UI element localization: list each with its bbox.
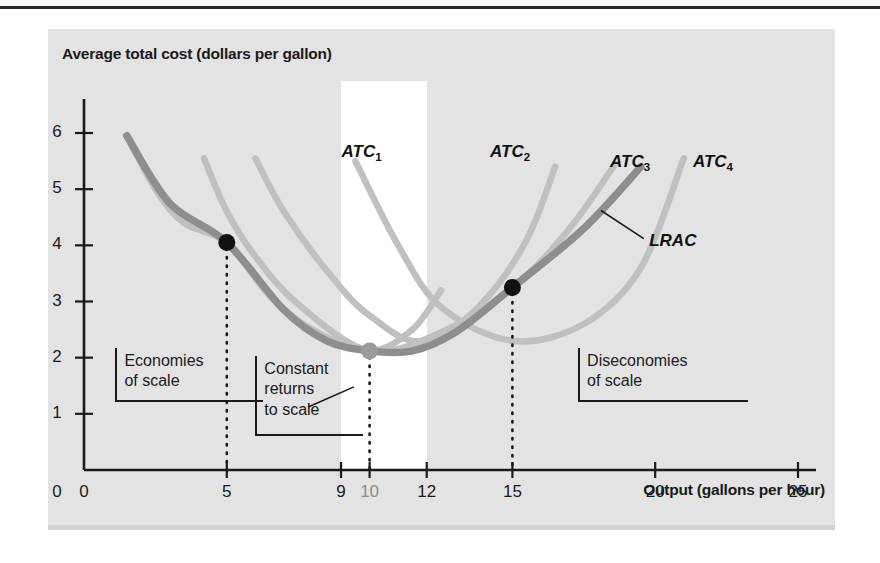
curve-label-atc4: ATC4 — [693, 152, 733, 173]
top-rule — [0, 6, 880, 9]
diseconomies-line-1: Diseconomies — [587, 351, 740, 371]
x-tick-label-0: 0 — [70, 482, 98, 502]
economies-line-2: of scale — [124, 371, 255, 391]
curve-label-lrac: LRAC — [649, 231, 696, 251]
figure-stage: Average total cost (dollars per gallon) … — [0, 0, 880, 563]
x-tick-label-20: 20 — [641, 482, 669, 502]
plot-svg — [48, 29, 835, 525]
x-tick-label-25: 25 — [784, 482, 812, 502]
y-tick-label-2: 2 — [43, 347, 71, 367]
diseconomies-line-2: of scale — [587, 371, 740, 391]
constant-line-1: Constant — [264, 359, 355, 379]
annotation-economies-of-scale: Economies of scale — [115, 348, 263, 402]
curve-lrac — [127, 136, 641, 353]
y-tick-label-5: 5 — [43, 178, 71, 198]
x-tick-label-9: 9 — [327, 482, 355, 502]
y-tick-label-6: 6 — [43, 122, 71, 142]
figure-bottom-strip — [48, 525, 835, 530]
curve-label-atc3: ATC3 — [610, 152, 650, 173]
chart-figure: Average total cost (dollars per gallon) … — [48, 29, 835, 525]
lrac-leader-line — [601, 211, 644, 239]
y-tick-label-1: 1 — [43, 403, 71, 423]
economies-line-1: Economies — [124, 351, 255, 371]
y-tick-label-3: 3 — [43, 291, 71, 311]
annotation-constant-returns-to-scale: Constant returns to scale — [255, 356, 363, 436]
marker-point-10 — [361, 342, 378, 359]
x-tick-label-15: 15 — [498, 482, 526, 502]
curve-label-atc2: ATC2 — [490, 142, 530, 163]
x-tick-label-5: 5 — [213, 482, 241, 502]
x-tick-label-10: 10 — [356, 482, 384, 502]
marker-point-5 — [218, 234, 235, 251]
constant-line-2: returns — [264, 379, 355, 399]
y-tick-label-0: 0 — [43, 482, 71, 502]
constant-line-3: to scale — [264, 400, 355, 420]
y-tick-label-4: 4 — [43, 234, 71, 254]
curves-layer — [127, 136, 684, 353]
x-tick-label-12: 12 — [413, 482, 441, 502]
annotation-diseconomies-of-scale: Diseconomies of scale — [578, 348, 748, 402]
marker-point-15 — [504, 279, 521, 296]
curve-label-atc1: ATC1 — [342, 142, 382, 163]
